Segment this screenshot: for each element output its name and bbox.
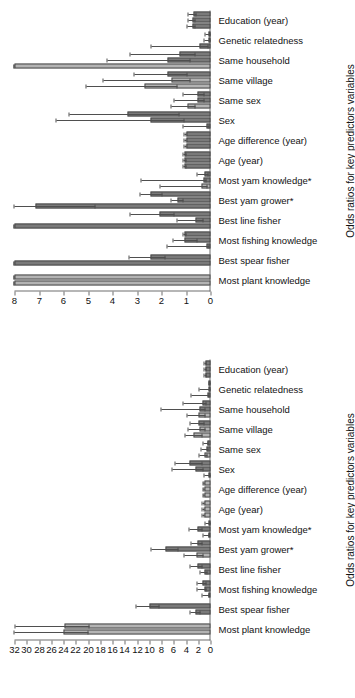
bar-with-error <box>14 413 210 418</box>
bar <box>14 261 210 266</box>
bar-group <box>14 150 210 170</box>
bar-with-error <box>14 118 210 123</box>
bar-with-error <box>14 172 210 177</box>
category-label: Best line fisher <box>214 210 346 230</box>
error-bar <box>161 409 205 410</box>
category-label: Same household <box>214 50 346 70</box>
category-label: Age (year) <box>214 150 346 170</box>
axis-tick-label: 3 <box>134 295 139 306</box>
bar-with-error <box>14 98 210 103</box>
error-bar-cap <box>183 553 184 557</box>
error-bar-cap <box>203 481 204 485</box>
error-bar-cap <box>201 501 202 505</box>
bar-with-error <box>14 587 210 592</box>
error-bar-cap <box>205 373 206 377</box>
error-bar-cap <box>13 275 14 279</box>
error-bar-cap <box>203 473 204 477</box>
category-label-text: Same household <box>218 55 289 66</box>
bar-with-error <box>14 138 210 143</box>
axis-tick-label: 24 <box>58 644 69 655</box>
error-bar-cap <box>205 178 206 182</box>
bar-group <box>14 399 210 419</box>
error-bar-cap <box>55 118 56 122</box>
category-label: Same sex <box>214 90 346 110</box>
error-bar-cap <box>207 44 208 48</box>
error-bar-cap <box>203 361 204 365</box>
error-bar-cap <box>139 192 140 196</box>
error-bar-cap <box>203 513 204 517</box>
error-bar-cap <box>185 164 186 168</box>
error-bar-cap <box>206 570 207 574</box>
axis-tick-label: 10 <box>143 644 154 655</box>
error-bar-cap <box>129 212 130 216</box>
bar-with-error <box>14 52 210 57</box>
bar-groups-lower <box>14 359 210 639</box>
bar-with-error <box>14 32 210 37</box>
error-bar <box>56 120 185 121</box>
error-bar-cap <box>185 158 186 162</box>
bar <box>184 232 210 237</box>
error-bar-cap <box>205 361 206 365</box>
bar-group <box>14 359 210 379</box>
bar-group <box>14 499 210 519</box>
bar-group <box>14 110 210 130</box>
category-label-text: Best spear fisher <box>218 604 289 615</box>
error-bar-cap <box>196 587 197 591</box>
bar-with-error <box>14 487 210 492</box>
error-bar-cap <box>202 493 203 497</box>
bar-with-error <box>14 467 210 472</box>
error-bar <box>190 612 200 613</box>
error-bar-cap <box>128 255 129 259</box>
error-bar-cap <box>202 218 203 222</box>
error-bar-cap <box>196 581 197 585</box>
error-bar-cap <box>176 84 177 88</box>
bar-with-error <box>14 192 210 197</box>
category-label: Most plant knowledge <box>214 270 346 290</box>
bar-group <box>14 30 210 50</box>
error-bar-cap <box>203 421 204 425</box>
error-bar-cap <box>187 18 188 22</box>
bar-with-error <box>14 453 210 458</box>
error-bar-cap <box>205 587 206 591</box>
error-bar-cap <box>183 138 184 142</box>
error-bar <box>167 246 209 247</box>
error-bar <box>173 240 196 241</box>
category-label: Sex <box>214 110 346 130</box>
bar-with-error <box>14 158 210 163</box>
bar-with-error <box>14 427 210 432</box>
bar-with-error <box>14 232 210 237</box>
axis-tick-label: 5 <box>85 295 90 306</box>
error-bar-cap <box>203 487 204 491</box>
error-bar-cap <box>208 381 209 385</box>
category-label-text: Age (year) <box>218 504 262 515</box>
error-bar <box>187 415 205 416</box>
error-bar-cap <box>186 72 187 76</box>
error-bar <box>130 54 195 55</box>
category-label-text: Most yam knowledge* <box>218 524 311 535</box>
error-bar-cap <box>203 92 204 96</box>
bar <box>184 164 210 169</box>
axis-tick-label: 14 <box>119 644 130 655</box>
error-bar-cap <box>183 118 184 122</box>
error-bar <box>175 463 202 464</box>
bar-group <box>14 579 210 599</box>
error-bar-cap <box>13 224 14 228</box>
bar-with-error <box>14 441 210 446</box>
bar-with-error <box>14 481 210 486</box>
error-bar <box>129 257 165 258</box>
error-bar-cap <box>189 58 190 62</box>
bar-with-error <box>14 570 210 575</box>
bar-with-error <box>14 387 210 392</box>
bar-with-error <box>14 381 210 386</box>
error-bar-cap <box>189 564 190 568</box>
bar-with-error <box>14 58 210 63</box>
error-bar <box>160 186 207 187</box>
error-bar-cap <box>184 433 185 437</box>
error-bar-cap <box>202 467 203 471</box>
error-bar-cap <box>194 24 195 28</box>
bar-with-error <box>14 164 210 169</box>
error-bar <box>15 626 89 627</box>
error-bar-cap <box>200 447 201 451</box>
category-label-text: Same sex <box>218 444 260 455</box>
